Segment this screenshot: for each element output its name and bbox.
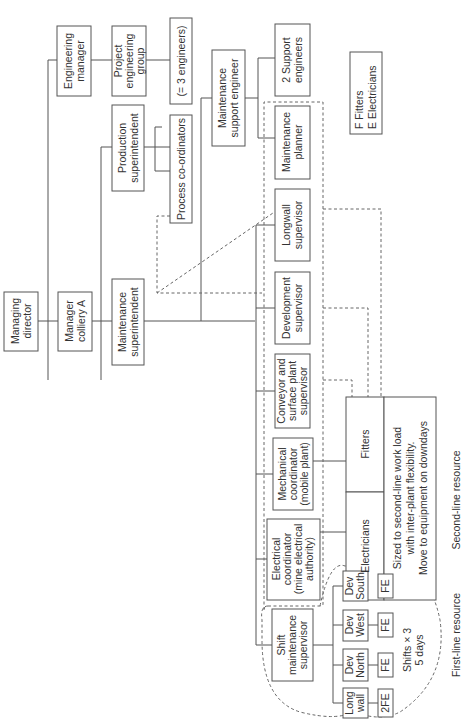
crew-dev-west-label: FE [379, 618, 391, 631]
production-superintendent-label-line: Production [116, 123, 128, 173]
labels: ManagingdirectorManagercolliery AMainten… [9, 26, 462, 715]
shifts-note-line: Shifts × 3 [401, 628, 413, 672]
engineering-manager-label-line: Engineering [62, 33, 74, 89]
shifts-note: Shifts × 35 days [401, 628, 425, 672]
dev-west-label-line: West [354, 613, 366, 637]
maintenance-planner-label-line: planner [292, 124, 304, 160]
electrical-coordinator-label-line: authority) [303, 537, 315, 581]
mechanical-coordinator-label-line: (mobile plant) [298, 442, 310, 506]
second-line-note-label-line: with inter-plant flexibility. [404, 441, 416, 555]
second-line-note-label: Sized to second-line work loadwith inter… [391, 421, 429, 575]
three-engineers-label-line: (= 3 engineers) [175, 26, 187, 97]
manager-colliery-label-line: Manager [63, 300, 75, 342]
longwall-supervisor-label: Longwallsupervisor [280, 200, 304, 249]
conveyor-supervisor-label: Conveyor andsurface plantsupervisor [275, 358, 309, 424]
dev-south-label-line: South [354, 572, 366, 600]
dev-north-label-line: North [354, 652, 366, 678]
dev-west-label: DevWest [343, 613, 366, 637]
support-engineers-label: 2 Supportengineers [280, 37, 304, 83]
second-line-label: Second-line resource [450, 450, 462, 549]
manager-colliery-label: Managercolliery A [63, 300, 87, 342]
maintenance-support-engineer-label-line: support engineer [228, 58, 240, 137]
maintenance-superintendent-label-line: Maintenance [116, 292, 128, 352]
long-wall-label: Longwall [343, 691, 366, 715]
electricians-label-line: Electricians [359, 519, 371, 573]
crew-long-wall-label-line: 2FE [379, 693, 391, 712]
shifts-note-line: 5 days [413, 635, 425, 666]
legend-line: F Fitters [353, 91, 365, 130]
project-engineering-group-label-line: group [134, 47, 146, 74]
crew-dev-west-label-line: FE [379, 618, 391, 631]
support-engineers-label-line: 2 Support [280, 37, 292, 83]
managing-director-label-line: director [21, 303, 33, 339]
engineering-manager-label: Engineeringmanager [62, 33, 86, 89]
maintenance-superintendent-label-line: superintendent [128, 287, 140, 357]
crew-dev-south-label-line: FE [379, 579, 391, 592]
electricians-label: Electricians [359, 519, 371, 573]
maintenance-support-engineer-label: Maintenancesupport engineer [216, 58, 240, 137]
engineering-manager-label-line: manager [74, 40, 86, 82]
maintenance-superintendent-label: Maintenancesuperintendent [116, 287, 140, 357]
managing-director-label-line: Managing [9, 298, 21, 344]
support-engineers-label-line: engineers [292, 37, 304, 83]
three-engineers-label: (= 3 engineers) [175, 26, 187, 97]
longwall-supervisor-label-line: Longwall [280, 204, 292, 245]
org-chart: ManagingdirectorManagercolliery AMainten… [0, 0, 468, 721]
maintenance-support-engineer-label-line: Maintenance [216, 68, 228, 128]
dev-north-label: DevNorth [343, 652, 366, 678]
crew-dev-north-label: FE [379, 658, 391, 671]
connector-lines [38, 58, 378, 703]
production-superintendent-label: Productionsuperintendent [116, 113, 140, 183]
crew-long-wall-label: 2FE [379, 693, 391, 712]
development-supervisor-label-line: supervisor [292, 283, 304, 332]
first-line-label: First-line resource [450, 593, 462, 677]
manager-colliery-label-line: colliery A [75, 300, 87, 342]
development-supervisor-label-line: Development [280, 277, 292, 339]
long-wall-label-line: wall [354, 694, 366, 713]
development-supervisor-label: Developmentsupervisor [280, 277, 304, 339]
second-line-note-label-line: Sized to second-line work load [391, 427, 403, 570]
longwall-supervisor-label-line: supervisor [292, 200, 304, 249]
managing-director-label: Managingdirector [9, 298, 33, 344]
crew-dev-south-label: FE [379, 579, 391, 592]
fitters-label-line: Fitters [359, 429, 371, 458]
legend-line: E Electricians [366, 65, 378, 129]
second-line-label-line: Second-line resource [450, 450, 462, 549]
first-line-label-line: First-line resource [450, 593, 462, 677]
second-line-note-label-line: Move to equipment on downdays [417, 421, 429, 575]
mechanical-coordinator-label: Mechanicalcoordinator(mobile plant) [276, 442, 310, 506]
fitters-label: Fitters [359, 429, 371, 458]
production-superintendent-label-line: superintendent [128, 113, 140, 183]
process-coordinators-label-line: Process co-ordinators [175, 118, 187, 220]
maintenance-planner-label-line: Maintenance [280, 112, 292, 172]
crew-dev-north-label-line: FE [379, 658, 391, 671]
process-coordinators-label: Process co-ordinators [175, 118, 187, 220]
shift-supervisor-label-line: supervisor [297, 620, 309, 669]
conveyor-supervisor-label-line: supervisor [297, 366, 309, 415]
